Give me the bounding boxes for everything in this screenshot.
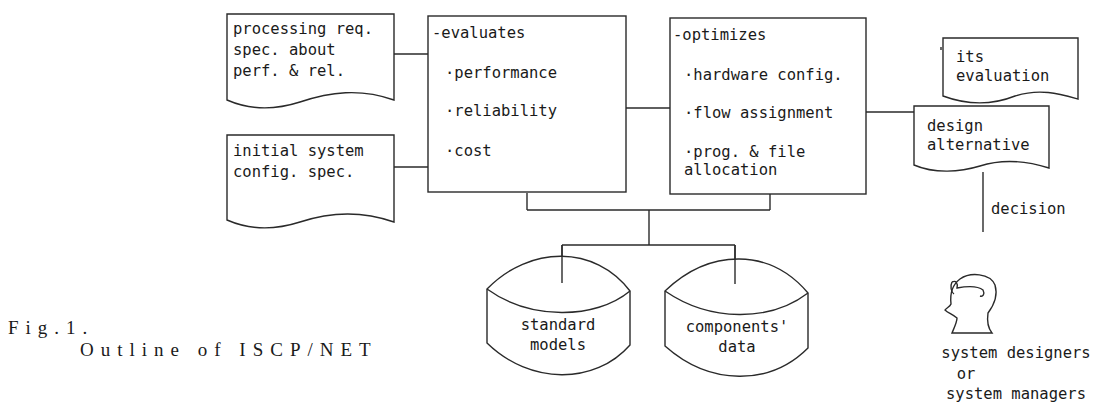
input-doc-initial-system-config: initial system config. spec. — [227, 135, 394, 228]
evaluator-item: ·performance — [445, 64, 557, 82]
doc-line: config. spec. — [233, 163, 354, 181]
output-doc-design-alternative: design alternative — [914, 106, 1049, 171]
doc-line: initial system — [233, 142, 364, 160]
actor-line: system managers — [946, 385, 1086, 403]
db-line: data — [718, 338, 755, 356]
person-head-icon — [945, 275, 996, 333]
actor-line: or — [957, 365, 976, 383]
optimizer-item: ·hardware config. — [684, 66, 843, 84]
evaluator-box: -evaluates ·performance ·reliability ·co… — [428, 16, 626, 192]
optimizer-header: -optimizes — [673, 26, 766, 44]
doc-line: processing req. — [233, 20, 373, 38]
doc-line: perf. & rel. — [233, 62, 345, 80]
database-standard-models: standard models — [487, 245, 630, 375]
output-doc-evaluation: its evaluation — [941, 38, 1078, 103]
optimizer-box: -optimizes ·hardware config. ·flow assig… — [670, 18, 866, 194]
input-doc-processing-requirements: processing req. spec. about perf. & rel. — [227, 14, 394, 108]
doc-line: evaluation — [956, 67, 1049, 85]
doc-line: spec. about — [233, 41, 336, 59]
iscp-net-outline-diagram: processing req. spec. about perf. & rel.… — [0, 0, 1094, 411]
caption-figure-number: Fig.1. — [8, 317, 94, 338]
db-line: models — [530, 336, 586, 354]
actor-label: system designers or system managers — [941, 344, 1090, 403]
caption-title: Outline of ISCP/NET — [80, 339, 378, 360]
doc-line: design — [927, 117, 983, 135]
doc-line: its — [956, 48, 984, 66]
doc-line: alternative — [927, 136, 1030, 154]
optimizer-item: ·prog. & file — [684, 143, 805, 161]
db-line: components' — [686, 318, 789, 336]
evaluator-header: -evaluates — [432, 24, 525, 42]
decision-label: decision — [991, 200, 1066, 218]
database-components-data: components' data — [665, 245, 808, 376]
evaluator-item: ·cost — [445, 142, 492, 160]
optimizer-item: ·flow assignment — [684, 104, 833, 122]
figure-caption: Fig.1. Outline of ISCP/NET — [8, 317, 378, 360]
evaluator-item: ·reliability — [445, 102, 557, 120]
actor-line: system designers — [941, 344, 1090, 362]
db-line: standard — [521, 316, 596, 334]
optimizer-item: allocation — [684, 161, 777, 179]
